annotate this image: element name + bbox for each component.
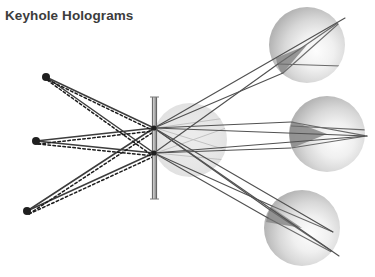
keyhole-lower: [151, 150, 156, 155]
image-sphere-bottom: [264, 190, 340, 266]
image-sphere-top: [269, 7, 345, 83]
keyhole-holograms-figure: Keyhole Holograms: [0, 0, 375, 277]
source-bottom: [23, 207, 31, 215]
incoming-rays-group: [27, 77, 155, 214]
ray-diagram-canvas: [0, 0, 375, 277]
image-spheres-group: [264, 7, 367, 266]
ray-in-1: [46, 77, 154, 128]
keyhole-upper: [151, 125, 156, 130]
source-points-group: [23, 73, 50, 215]
object-sphere: [153, 103, 227, 177]
source-middle: [32, 137, 40, 145]
source-top: [42, 73, 50, 81]
